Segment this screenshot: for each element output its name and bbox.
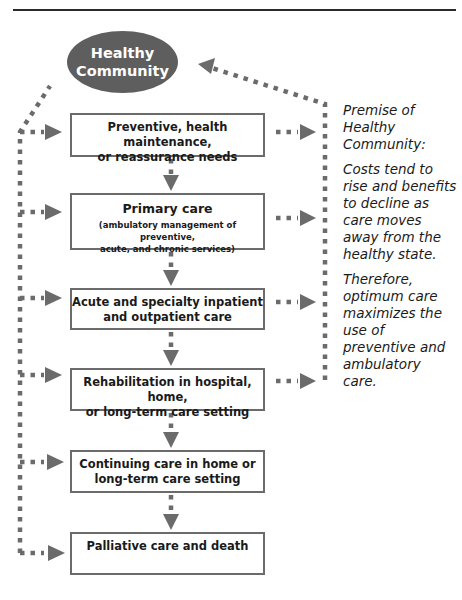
box-title-line2: long-term care setting (72, 472, 263, 487)
box-preventive: Preventive, health maintenance, or reass… (70, 113, 265, 157)
box-title-line2: or long-term care setting (72, 405, 263, 420)
box-rehabilitation: Rehabilitation in hospital, home, or lon… (70, 368, 265, 411)
box-title: Primary care (72, 201, 263, 216)
node-label-line1: Healthy (76, 44, 169, 62)
box-title: Acute and specialty inpatient (72, 295, 263, 310)
premise-text: Premise of Healthy Community: Costs tend… (343, 102, 458, 398)
box-acute-specialty: Acute and specialty inpatient and outpat… (70, 288, 265, 330)
premise-paragraph-2: Therefore, optimum care maximizes the us… (343, 271, 458, 390)
healthy-community-node: Healthy Community (67, 31, 178, 93)
box-title-line2: or reassurance needs (72, 150, 263, 165)
premise-heading: Premise of Healthy Community: (343, 102, 458, 153)
premise-paragraph-1: Costs tend to rise and benefits to decli… (343, 161, 458, 263)
box-title: Continuing care in home or (72, 457, 263, 472)
box-title: Preventive, health maintenance, (72, 120, 263, 150)
node-label-line2: Community (76, 62, 169, 80)
box-title: Palliative care and death (72, 539, 263, 554)
box-title-line2: and outpatient care (72, 310, 263, 325)
box-palliative-care: Palliative care and death (70, 532, 265, 575)
box-continuing-care: Continuing care in home or long-term car… (70, 450, 265, 493)
box-subtitle-line2: acute, and chronic services) (72, 243, 263, 255)
box-subtitle-line1: (ambulatory management of preventive, (72, 219, 263, 243)
box-primary-care: Primary care (ambulatory management of p… (70, 193, 265, 250)
box-title: Rehabilitation in hospital, home, (72, 375, 263, 405)
